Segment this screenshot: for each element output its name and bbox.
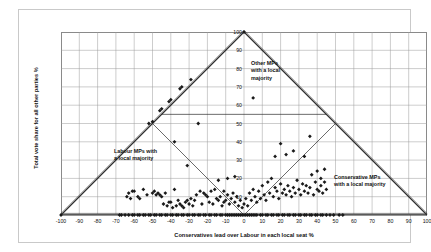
data-point xyxy=(302,189,306,193)
data-point xyxy=(310,173,314,177)
x-tick-label: 40 xyxy=(314,218,320,224)
data-point xyxy=(284,193,288,197)
data-point xyxy=(264,198,268,202)
x-tick-label: -70 xyxy=(112,218,120,224)
annotation-conservative-mps: Conservative MPs with a local majority xyxy=(334,174,386,189)
data-point xyxy=(222,189,226,193)
x-tick-label: -50 xyxy=(149,218,157,224)
data-point xyxy=(257,189,261,193)
y-tick-label: 10 xyxy=(236,194,242,200)
data-point xyxy=(218,195,222,199)
y-tick-label: 60 xyxy=(236,102,242,108)
data-point xyxy=(193,198,197,202)
data-point xyxy=(259,197,263,201)
data-point xyxy=(129,197,133,201)
data-point xyxy=(308,134,312,138)
data-point xyxy=(337,213,341,217)
annotation-labour-mps: Labour MPs with a local majority xyxy=(114,148,157,163)
data-point xyxy=(220,204,224,208)
data-point xyxy=(123,213,127,217)
x-tick-label: 20 xyxy=(278,218,284,224)
data-point xyxy=(292,149,296,153)
y-tick-label: 20 xyxy=(236,175,242,181)
data-point xyxy=(162,202,166,206)
data-point xyxy=(279,182,283,186)
data-point xyxy=(163,191,167,195)
data-point xyxy=(323,180,327,184)
data-point xyxy=(189,197,193,201)
data-point xyxy=(174,204,178,208)
y-tick-label: 40 xyxy=(236,139,242,145)
data-point xyxy=(319,184,323,188)
data-point xyxy=(268,191,272,195)
data-point xyxy=(200,202,204,206)
data-point xyxy=(319,177,323,181)
data-point xyxy=(328,213,332,217)
data-point xyxy=(313,180,317,184)
y-tick-label: 90 xyxy=(236,47,242,53)
data-point xyxy=(195,193,199,197)
data-point xyxy=(295,178,299,182)
data-point xyxy=(171,206,175,210)
data-point xyxy=(292,186,296,190)
y-tick-label: 70 xyxy=(236,84,242,90)
x-tick-label: 80 xyxy=(388,218,394,224)
data-point xyxy=(281,191,285,195)
data-point xyxy=(324,187,328,191)
y-tick-label: 100 xyxy=(233,29,242,35)
data-point xyxy=(271,195,275,199)
data-point xyxy=(191,204,195,208)
data-point xyxy=(266,180,270,184)
annotation-other-mps: Other MPs with a local majority xyxy=(251,60,280,82)
data-point xyxy=(293,191,297,195)
data-point xyxy=(279,142,283,146)
x-tick-label: -30 xyxy=(185,218,193,224)
data-point xyxy=(251,187,255,191)
x-tick-label: 30 xyxy=(296,218,302,224)
data-point xyxy=(299,193,303,197)
data-point xyxy=(226,193,230,197)
data-point xyxy=(240,206,244,210)
data-point xyxy=(216,178,220,182)
data-point xyxy=(211,202,215,206)
data-point xyxy=(286,184,290,188)
x-axis-title: Conservatives lead over Labour in each l… xyxy=(61,232,427,238)
data-point xyxy=(127,191,131,195)
data-point xyxy=(248,191,252,195)
data-point xyxy=(255,200,259,204)
data-point xyxy=(251,96,255,100)
x-tick-label: -80 xyxy=(94,218,102,224)
data-point xyxy=(332,213,336,217)
data-point xyxy=(273,155,277,159)
data-point xyxy=(262,193,266,197)
x-tick-label: -20 xyxy=(204,218,212,224)
data-point xyxy=(277,197,281,201)
data-point xyxy=(246,204,250,208)
x-tick-label: 10 xyxy=(259,218,265,224)
data-point xyxy=(198,189,202,193)
data-point xyxy=(173,187,177,191)
data-point xyxy=(233,200,237,204)
data-point xyxy=(302,155,306,159)
x-tick-label: -60 xyxy=(130,218,138,224)
data-point xyxy=(315,169,319,173)
data-point xyxy=(249,198,253,202)
data-point xyxy=(288,189,292,193)
x-tick-label: -90 xyxy=(76,218,84,224)
x-tick-label: -10 xyxy=(222,218,230,224)
data-point xyxy=(306,191,310,195)
data-point xyxy=(187,202,191,206)
data-point xyxy=(290,195,294,199)
data-point xyxy=(189,78,193,82)
data-point xyxy=(229,197,233,201)
data-point xyxy=(145,193,149,197)
data-point xyxy=(125,195,129,199)
y-tick-label: 80 xyxy=(236,66,242,72)
data-point xyxy=(242,30,246,34)
x-tick-label: 100 xyxy=(423,218,431,224)
data-point xyxy=(321,191,325,195)
data-point xyxy=(226,177,230,181)
data-point xyxy=(324,213,328,217)
y-tick-label: 30 xyxy=(236,157,242,163)
data-point xyxy=(185,164,189,168)
